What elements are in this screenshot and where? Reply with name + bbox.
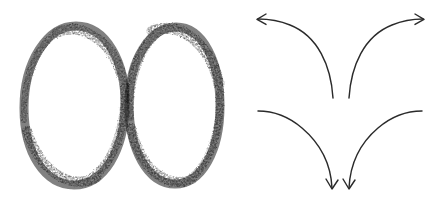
figure-canvas: Two adjacent hand-drawn ellipses beside … — [0, 0, 438, 205]
figure-illustration — [0, 0, 438, 205]
